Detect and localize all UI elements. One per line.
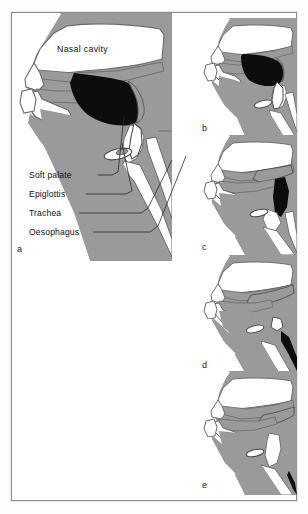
panel-d-bolus-entering-oesophagus: d (197, 255, 297, 373)
lips-e (204, 419, 217, 437)
panel-e-illustration (197, 371, 297, 495)
panel-c-illustration (197, 135, 297, 255)
lips-d (204, 301, 217, 319)
lips-b (204, 63, 217, 81)
oesophagus-label: Oesophagus (29, 228, 79, 237)
panel-d-illustration (197, 255, 297, 373)
panel-b-letter: b (202, 124, 207, 133)
figure-root: a (0, 0, 308, 514)
panel-c-letter: c (202, 243, 207, 252)
panel-a-letter: a (17, 245, 22, 254)
epiglottis-label: Epiglottis (29, 190, 65, 199)
panel-e-letter: e (202, 481, 207, 490)
figure-border-frame: a (11, 12, 297, 501)
panel-b-bolus-at-back-of-mouth: b (197, 18, 297, 136)
lips-c (204, 181, 217, 199)
panel-b-illustration (197, 18, 297, 136)
lips (20, 89, 36, 113)
trachea-label: Trachea (29, 209, 61, 218)
nasal-cavity-label: Nasal cavity (57, 44, 108, 54)
panel-c-bolus-in-pharynx: c (197, 135, 297, 255)
soft-palate-label: Soft palate (29, 171, 72, 180)
panel-d-letter: d (202, 361, 207, 370)
panel-e-return-to-rest: e (197, 371, 297, 495)
